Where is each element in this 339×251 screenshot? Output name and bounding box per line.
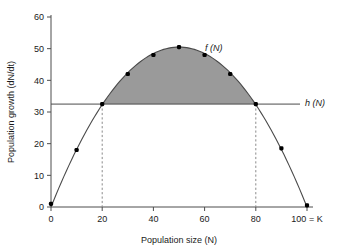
y-tick-label: 0	[39, 202, 44, 212]
data-point-marker	[228, 72, 232, 76]
data-point-marker	[49, 202, 53, 206]
data-point-marker	[203, 53, 207, 57]
x-axis-ticks	[51, 207, 307, 211]
data-point-marker	[151, 53, 155, 57]
data-point-marker	[75, 148, 79, 152]
y-tick-label: 50	[34, 44, 44, 54]
x-tick-label: 0	[48, 214, 53, 224]
x-tick-label: 40	[148, 214, 158, 224]
data-point-marker	[126, 72, 130, 76]
growth-curve-label: f (N)	[205, 43, 223, 53]
y-tick-label: 10	[34, 171, 44, 181]
data-point-marker	[177, 45, 181, 49]
data-point-marker	[279, 146, 283, 150]
y-tick-label: 30	[34, 107, 44, 117]
x-tick-label: 60	[200, 214, 210, 224]
x-tick-label: 100 = K	[291, 214, 322, 224]
y-tick-label: 20	[34, 139, 44, 149]
data-point-marker	[254, 102, 258, 106]
harvest-line-label: h (N)	[305, 98, 325, 108]
tick-labels-group: 0102030405060020406080100 = K	[34, 12, 323, 224]
data-point-marker	[100, 102, 104, 106]
x-tick-label: 20	[97, 214, 107, 224]
data-point-marker	[305, 203, 309, 207]
chart-figure: 0102030405060020406080100 = K Population…	[0, 0, 339, 251]
x-tick-label: 80	[251, 214, 261, 224]
y-axis-title: Population growth (dN/dt)	[6, 61, 16, 163]
axes-group	[47, 15, 313, 211]
y-axis-ticks	[47, 17, 51, 207]
y-tick-label: 40	[34, 76, 44, 86]
x-axis-title: Population size (N)	[141, 235, 217, 245]
droplines-group	[102, 104, 256, 207]
logistic-growth-chart: 0102030405060020406080100 = K Population…	[0, 0, 339, 251]
y-tick-label: 60	[34, 12, 44, 22]
